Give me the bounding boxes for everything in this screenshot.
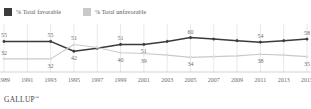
data-label: 38 bbox=[257, 58, 263, 64]
data-point bbox=[189, 36, 191, 38]
data-label: 60 bbox=[187, 29, 193, 35]
square-swatch-icon bbox=[4, 8, 12, 16]
data-label: 51 bbox=[71, 35, 77, 41]
data-point bbox=[49, 40, 51, 42]
data-point bbox=[236, 55, 238, 57]
data-point bbox=[166, 54, 168, 56]
line-chart-plot: 55554251516054583232514039343835 bbox=[0, 24, 311, 74]
data-point bbox=[306, 56, 308, 58]
data-label: 51 bbox=[118, 35, 124, 41]
data-point bbox=[259, 53, 261, 55]
data-point bbox=[120, 52, 122, 54]
data-label: 40 bbox=[118, 57, 124, 63]
brand-text: GALLUP bbox=[4, 95, 35, 104]
chart-legend: % Total favorable % Total unfavorable bbox=[4, 6, 146, 18]
data-label: 55 bbox=[48, 32, 54, 38]
x-axis-tick-label: 2007 bbox=[208, 76, 220, 84]
data-point bbox=[73, 50, 75, 52]
x-axis-tick-label: 2015 bbox=[301, 76, 311, 84]
data-label: 51 bbox=[141, 48, 147, 54]
data-point bbox=[259, 41, 261, 43]
data-point bbox=[190, 56, 192, 58]
legend-item-label: % Total unfavorable bbox=[95, 8, 146, 16]
x-axis-tick-label: 2001 bbox=[138, 76, 150, 84]
data-label: 32 bbox=[48, 63, 54, 69]
data-point bbox=[73, 44, 75, 46]
data-point bbox=[213, 38, 215, 40]
x-axis-tick-label: 2003 bbox=[161, 76, 173, 84]
x-axis-tick-label: 1989 bbox=[0, 76, 10, 84]
trademark-icon: ™ bbox=[35, 95, 39, 100]
data-label: 39 bbox=[141, 58, 147, 64]
data-label: 54 bbox=[257, 33, 263, 39]
x-axis-tick-label: 2013 bbox=[278, 76, 290, 84]
x-axis-tick-label: 1999 bbox=[115, 76, 127, 84]
data-label: 42 bbox=[71, 55, 77, 61]
data-point bbox=[143, 43, 145, 45]
data-point bbox=[50, 58, 52, 60]
legend-item-favorable[interactable]: % Total favorable bbox=[4, 8, 61, 16]
x-axis: 1989199119931995199719992001200320052007… bbox=[0, 76, 311, 88]
data-point bbox=[283, 54, 285, 56]
x-axis-tick-label: 1991 bbox=[21, 76, 33, 84]
x-axis-tick-label: 1993 bbox=[45, 76, 57, 84]
data-label: 32 bbox=[1, 50, 7, 56]
series-line bbox=[4, 44, 307, 58]
data-point bbox=[119, 43, 121, 45]
x-axis-tick-label: 1995 bbox=[68, 76, 80, 84]
data-point bbox=[96, 47, 98, 49]
x-axis-tick-label: 1997 bbox=[91, 76, 103, 84]
data-label: 58 bbox=[304, 30, 310, 36]
data-label: 55 bbox=[1, 32, 7, 38]
data-point bbox=[236, 39, 238, 41]
data-label: 34 bbox=[187, 61, 193, 67]
series-line bbox=[4, 38, 307, 52]
data-point bbox=[3, 58, 5, 60]
data-point bbox=[3, 40, 5, 42]
data-point bbox=[166, 40, 168, 42]
x-axis-tick-label: 2009 bbox=[231, 76, 243, 84]
legend-item-unfavorable[interactable]: % Total unfavorable bbox=[83, 8, 146, 16]
x-axis-tick-label: 2011 bbox=[254, 76, 266, 84]
data-label: 35 bbox=[304, 61, 310, 67]
data-point bbox=[213, 56, 215, 58]
legend-item-label: % Total favorable bbox=[16, 8, 61, 16]
x-axis-tick-label: 2005 bbox=[184, 76, 196, 84]
data-point bbox=[306, 38, 308, 40]
data-point bbox=[283, 39, 285, 41]
gallup-brand: GALLUP™ bbox=[4, 93, 39, 105]
chart-screenshot: % Total favorable % Total unfavorable 55… bbox=[0, 0, 311, 109]
square-swatch-icon bbox=[83, 8, 91, 16]
